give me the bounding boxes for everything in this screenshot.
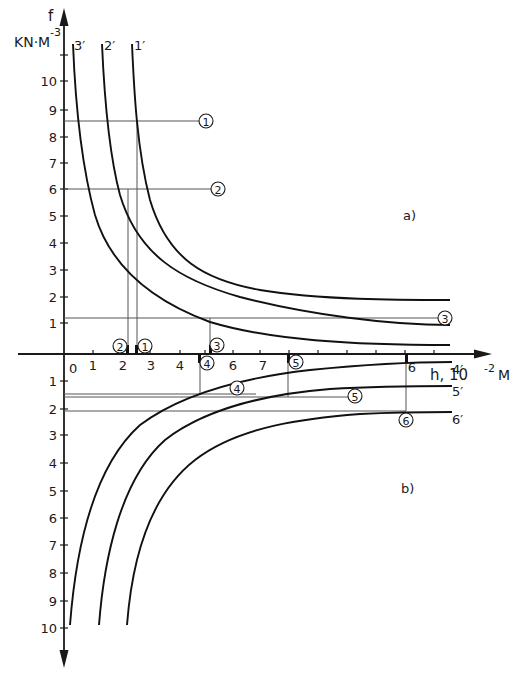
y-tick-label: 2 xyxy=(49,402,57,417)
y-tick-label: 4 xyxy=(49,456,57,471)
x-tick-label: 7 xyxy=(259,358,267,373)
y-tick-label: 10 xyxy=(40,621,57,636)
x-tick-label: 2 xyxy=(119,358,127,373)
marker-6: 6 xyxy=(399,413,413,428)
y-tick-label: 7 xyxy=(49,156,57,171)
marker-1-axis: 1 xyxy=(138,339,152,354)
y-tick-label: 10 xyxy=(40,74,57,89)
curve-label-3-prime: 3′ xyxy=(74,38,85,53)
y-tick-label: 7 xyxy=(49,538,57,553)
svg-text:1: 1 xyxy=(203,116,210,129)
marker-3: 3 xyxy=(438,311,452,326)
svg-text:5: 5 xyxy=(352,391,359,404)
svg-text:4: 4 xyxy=(234,383,241,396)
figure: 1 2 3 4 5 6 7 8 9 10 1 2 3 4 5 6 7 8 9 1… xyxy=(0,0,516,674)
marker-3-axis: 3 xyxy=(210,338,224,353)
y-tick-label: 5 xyxy=(49,484,57,499)
y-tick-label: 5 xyxy=(49,209,57,224)
svg-text:3: 3 xyxy=(442,313,449,326)
marker-1: 1 xyxy=(199,114,213,129)
curve-label-2-prime: 2′ xyxy=(104,38,115,53)
curve-1-prime xyxy=(132,44,450,300)
svg-text:1: 1 xyxy=(142,341,149,354)
y-tick-label: 8 xyxy=(49,130,57,145)
y-tick-label: 8 xyxy=(49,566,57,581)
curve-label-6-prime: 6′ xyxy=(452,412,463,427)
y-tick-label: 6 xyxy=(49,182,57,197)
y-tick-label: 1 xyxy=(49,374,57,389)
marker-5: 5 xyxy=(348,389,362,404)
x-axis-unit-exponent: -2 xyxy=(484,362,495,375)
y-tick-label: 2 xyxy=(49,290,57,305)
svg-text:3: 3 xyxy=(214,340,221,353)
panel-label-b: b) xyxy=(401,481,414,496)
y-tick-label: 3 xyxy=(49,428,57,443)
curve-label-1-prime: 1′ xyxy=(134,38,145,53)
svg-text:2: 2 xyxy=(215,184,222,197)
y-axis-unit-exponent: -3 xyxy=(50,26,61,39)
x-tick-label: 4 xyxy=(176,358,184,373)
curve-6-prime xyxy=(127,412,452,625)
x-tick-label: 6 xyxy=(229,358,237,373)
marker-2-axis: 2 xyxy=(113,339,127,354)
curve-label-5-prime: 5′ xyxy=(452,384,463,399)
y-tick-label: 1 xyxy=(49,316,57,331)
curves-panel-a xyxy=(73,44,450,345)
marker-5-axis: 5 xyxy=(289,355,303,370)
x-axis-unit: M xyxy=(498,367,510,383)
marker-2: 2 xyxy=(211,182,225,197)
curve-label-4-prime: 4′ xyxy=(452,362,463,377)
marker-4: 4 xyxy=(230,381,244,396)
panel-label-a: a) xyxy=(403,208,416,223)
y-tick-label: 9 xyxy=(49,594,57,609)
marker-4-axis: 4 xyxy=(200,356,214,371)
svg-text:5: 5 xyxy=(293,357,300,370)
curve-2-prime xyxy=(102,44,450,325)
y-axis-unit: KN·M xyxy=(14,34,50,50)
curves-panel-b xyxy=(70,362,452,625)
y-tick-label: 6 xyxy=(49,511,57,526)
x-tick-label: 1 xyxy=(89,358,97,373)
x-tick-label: 3 xyxy=(147,358,155,373)
y-tick-label: 3 xyxy=(49,263,57,278)
x-axis-arrow-icon xyxy=(474,350,492,359)
svg-text:6: 6 xyxy=(403,415,410,428)
y-axis xyxy=(60,8,69,668)
x-origin-label: 0 xyxy=(69,361,77,376)
y-axis-up-arrow-icon xyxy=(60,8,69,26)
y-tick-label: 9 xyxy=(49,103,57,118)
y-tick-label: 4 xyxy=(49,236,57,251)
y-axis-name: f xyxy=(48,7,54,25)
svg-text:4: 4 xyxy=(204,358,211,371)
y-axis-down-arrow-icon xyxy=(60,650,69,668)
svg-text:2: 2 xyxy=(117,341,124,354)
